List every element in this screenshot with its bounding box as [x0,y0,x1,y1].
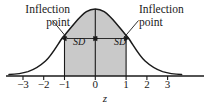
tick-label-pos-1: 1 [116,78,136,90]
normal-distribution-figure: Inflection point Inflection point SD SD … [0,0,210,112]
tick-label-neg-1: −1 [55,78,75,90]
inflection-point-label-left: Inflection point [8,3,70,28]
inflection-point-label-left-line1: Inflection [8,3,70,16]
tick-label-neg-2: −2 [34,78,54,90]
inflection-point-label-left-line2: point [8,16,70,29]
axis-title-z: z [95,92,115,104]
inflection-point-label-right-line2: point [139,16,205,29]
tick-label-neg-3: −3 [13,78,33,90]
sd-label-left: SD [67,36,91,47]
tick-label-pos-3: 3 [158,78,178,90]
sd-label-right: SD [108,36,132,47]
inflection-point-label-right-line1: Inflection [139,3,205,16]
tick-label-zero: 0 [85,78,105,90]
inflection-point-label-right: Inflection point [139,3,205,28]
tick-label-pos-2: 2 [137,78,157,90]
